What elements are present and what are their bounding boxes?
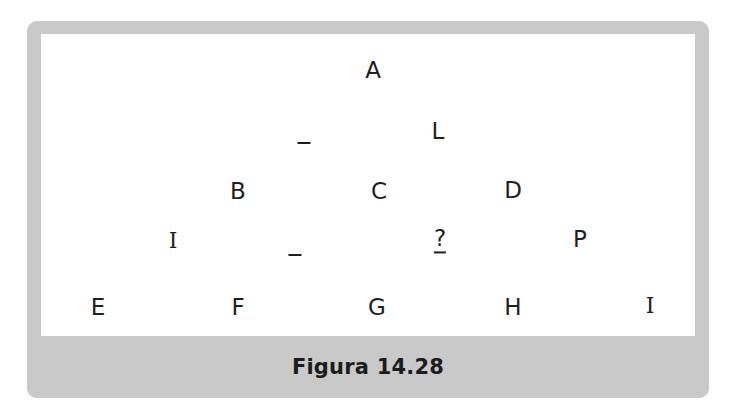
diagram-node-i: I: [646, 295, 655, 317]
diagram-node-p: P: [573, 228, 587, 251]
diagram-dash-mark: [298, 142, 311, 144]
diagram-node-question: ?: [434, 226, 446, 253]
figure-canvas: ALBCDI?PEFGHI: [41, 34, 695, 336]
diagram-dash-mark: [289, 254, 302, 256]
diagram-node-l: L: [432, 120, 445, 143]
diagram-node-a: A: [365, 59, 381, 82]
figure-page: ALBCDI?PEFGHI Figura 14.28: [0, 0, 735, 415]
diagram-node-e: E: [91, 296, 106, 319]
figure-card: ALBCDI?PEFGHI Figura 14.28: [27, 21, 709, 398]
diagram-node-c: C: [371, 180, 387, 203]
diagram-node-g: G: [368, 296, 386, 319]
figure-caption-band: Figura 14.28: [27, 336, 709, 398]
diagram-node-b: B: [230, 180, 246, 203]
diagram-node-h: H: [504, 296, 521, 319]
diagram-node-i: I: [169, 230, 178, 252]
diagram-node-d: D: [504, 179, 522, 202]
diagram-node-f: F: [231, 296, 244, 319]
figure-caption: Figura 14.28: [292, 355, 444, 379]
